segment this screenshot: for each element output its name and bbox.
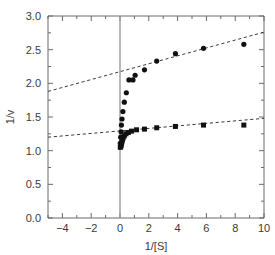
lower-series-squares <box>118 123 247 150</box>
data-point-circle <box>124 90 129 95</box>
data-point-square <box>134 127 139 132</box>
data-point-circle <box>122 100 127 105</box>
y-axis-tick-labels: 0.00.51.01.52.02.53.0 <box>26 10 41 224</box>
data-point-square <box>201 123 206 128</box>
data-point-circle <box>154 59 159 64</box>
data-point-circle <box>119 116 124 121</box>
data-point-circle <box>120 109 125 114</box>
y-tick-label: 2.0 <box>26 77 41 89</box>
data-point-square <box>154 125 159 130</box>
y-axis-minor-ticks <box>48 33 264 201</box>
data-point-square <box>129 129 134 134</box>
y-tick-label: 0.0 <box>26 212 41 224</box>
y-axis-major-ticks <box>48 16 264 218</box>
y-tick-label: 2.5 <box>26 44 41 56</box>
data-point-circle <box>201 46 206 51</box>
data-point-square <box>142 127 147 132</box>
x-tick-label: 2 <box>146 222 152 234</box>
data-points-group <box>118 42 247 150</box>
y-axis-title: 1/v <box>4 109 16 124</box>
lineweaver-burk-figure: −4−20246810 0.00.51.01.52.02.53.0 1/[S] … <box>0 0 275 255</box>
data-point-circle <box>130 77 135 82</box>
x-tick-label: 6 <box>203 222 209 234</box>
data-point-circle <box>173 51 178 56</box>
x-tick-label: 0 <box>117 222 123 234</box>
y-tick-label: 1.5 <box>26 111 41 123</box>
x-axis-minor-ticks <box>48 16 250 218</box>
y-tick-label: 1.0 <box>26 145 41 157</box>
data-point-circle <box>119 122 124 127</box>
fit-lines-group <box>48 32 264 137</box>
x-tick-label: 8 <box>232 222 238 234</box>
y-tick-label: 0.5 <box>26 178 41 190</box>
axes-frame <box>48 16 264 218</box>
data-point-square <box>173 124 178 129</box>
data-point-circle <box>142 67 147 72</box>
plot-frame <box>48 16 264 218</box>
data-point-square <box>241 123 246 128</box>
x-tick-label: 4 <box>175 222 181 234</box>
x-axis-major-ticks <box>62 16 264 218</box>
data-point-circle <box>241 42 246 47</box>
x-tick-label: 10 <box>258 222 270 234</box>
plot-canvas: −4−20246810 0.00.51.01.52.02.53.0 1/[S] … <box>0 0 275 255</box>
y-tick-label: 3.0 <box>26 10 41 22</box>
data-point-circle <box>133 73 138 78</box>
x-axis-title: 1/[S] <box>145 240 168 252</box>
x-tick-label: −2 <box>85 222 98 234</box>
x-tick-label: −4 <box>56 222 69 234</box>
x-axis-tick-labels: −4−20246810 <box>56 222 270 234</box>
